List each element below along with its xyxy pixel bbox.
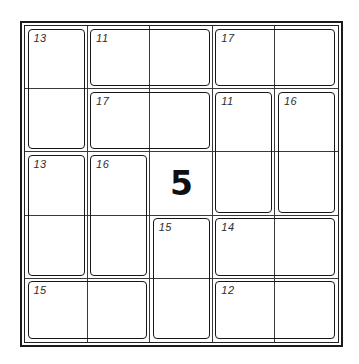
- cell-r3c5[interactable]: [275, 152, 338, 215]
- cell-r2c5[interactable]: [275, 89, 338, 152]
- cell-r5c3[interactable]: [150, 279, 213, 342]
- cell-r4c3[interactable]: [150, 216, 213, 279]
- cell-r5c5[interactable]: [275, 279, 338, 342]
- cell-r4c2[interactable]: [88, 216, 151, 279]
- cell-r4c5[interactable]: [275, 216, 338, 279]
- cell-r3c4[interactable]: [213, 152, 276, 215]
- cell-r3c1[interactable]: [25, 152, 88, 215]
- puzzle-grid: [25, 26, 338, 342]
- cell-r4c4[interactable]: [213, 216, 276, 279]
- cell-r3c2[interactable]: [88, 152, 151, 215]
- cell-r3c3[interactable]: [150, 152, 213, 215]
- cell-r2c2[interactable]: [88, 89, 151, 152]
- cell-r5c4[interactable]: [213, 279, 276, 342]
- cell-r5c1[interactable]: [25, 279, 88, 342]
- cell-r1c4[interactable]: [213, 26, 276, 89]
- puzzle-page: 131117171116131615141512 5: [0, 0, 359, 364]
- cell-r2c3[interactable]: [150, 89, 213, 152]
- cell-r1c1[interactable]: [25, 26, 88, 89]
- cell-r1c2[interactable]: [88, 26, 151, 89]
- puzzle-board: 131117171116131615141512 5: [20, 21, 343, 347]
- cell-r1c3[interactable]: [150, 26, 213, 89]
- cell-r5c2[interactable]: [88, 279, 151, 342]
- cell-r2c1[interactable]: [25, 89, 88, 152]
- cell-r4c1[interactable]: [25, 216, 88, 279]
- cell-r2c4[interactable]: [213, 89, 276, 152]
- cell-r1c5[interactable]: [275, 26, 338, 89]
- puzzle-board-inner: 131117171116131615141512 5: [24, 25, 339, 343]
